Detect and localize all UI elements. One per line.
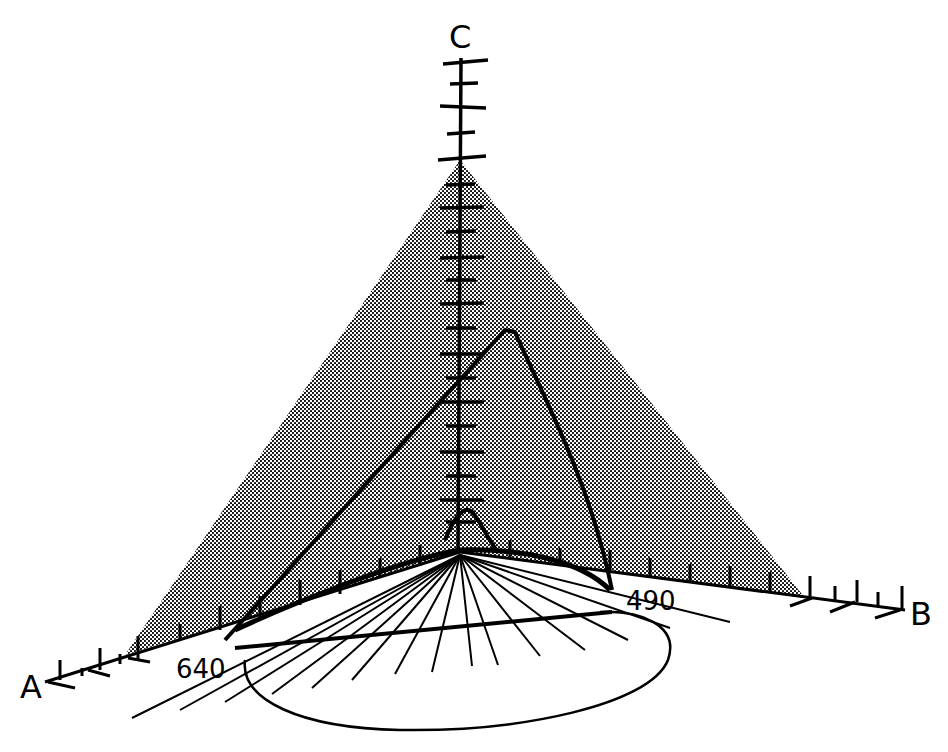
axis-label-a: A	[20, 668, 42, 706]
shaded-plane	[125, 160, 805, 655]
base-front-edge	[235, 612, 612, 648]
axis-label-b: B	[910, 595, 932, 633]
wavelength-label-640: 640	[176, 654, 226, 684]
axis-label-c: C	[449, 18, 471, 56]
ternary-3d-diagram: C A B 640 490	[0, 0, 948, 752]
wavelength-label-490: 490	[626, 586, 676, 616]
